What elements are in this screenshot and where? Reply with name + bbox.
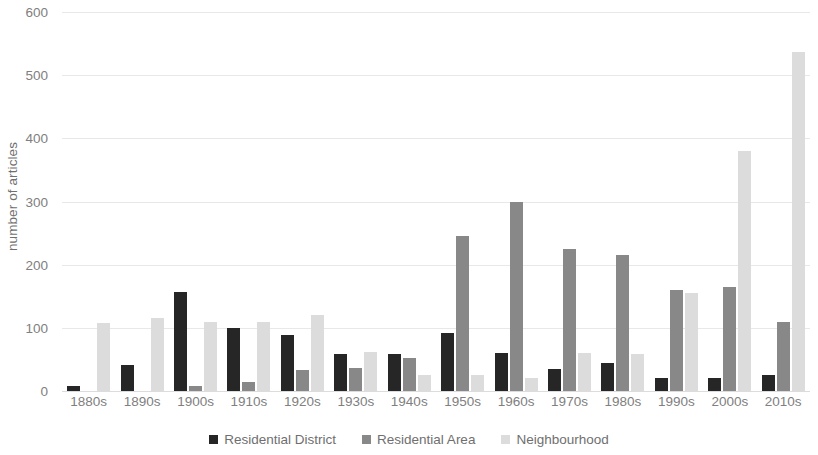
bar-group [383, 12, 436, 391]
bar[interactable] [364, 352, 377, 391]
bar[interactable] [349, 368, 362, 391]
legend-swatch-icon [501, 435, 510, 444]
y-axis-tick: 200 [25, 257, 48, 272]
bar-group [436, 12, 489, 391]
bar[interactable] [792, 52, 805, 391]
bar[interactable] [510, 202, 523, 392]
x-axis-tick: 1940s [383, 394, 436, 416]
bar-group [115, 12, 168, 391]
bar-group [489, 12, 542, 391]
bar-group [222, 12, 275, 391]
bar[interactable] [227, 328, 240, 391]
x-axis-tick-labels: 1880s1890s1900s1910s1920s1930s1940s1950s… [62, 394, 810, 416]
bar[interactable] [563, 249, 576, 391]
bar[interactable] [456, 236, 469, 391]
bar-group [543, 12, 596, 391]
bar[interactable] [311, 315, 324, 391]
bar[interactable] [708, 378, 721, 391]
bar[interactable] [601, 363, 614, 391]
bar[interactable] [174, 292, 187, 391]
bar[interactable] [296, 370, 309, 391]
x-axis-tick: 1910s [222, 394, 275, 416]
legend-label: Neighbourhood [516, 432, 608, 447]
bar-group [276, 12, 329, 391]
bar[interactable] [578, 353, 591, 391]
x-axis-tick: 1970s [543, 394, 596, 416]
bar-groups [62, 12, 810, 391]
bar-group [62, 12, 115, 391]
bar-chart: number of articles 0100200300400500600 1… [0, 0, 818, 455]
bar[interactable] [257, 322, 270, 391]
bar-group [703, 12, 756, 391]
bar[interactable] [388, 354, 401, 391]
x-axis-tick: 2000s [703, 394, 756, 416]
x-axis-tick: 1920s [276, 394, 329, 416]
legend-item[interactable]: Residential District [209, 432, 336, 447]
plot-area [62, 12, 810, 391]
legend-swatch-icon [209, 435, 218, 444]
bar[interactable] [151, 318, 164, 391]
y-axis-tick: 400 [25, 131, 48, 146]
x-axis-tick: 1930s [329, 394, 382, 416]
bar-group [756, 12, 809, 391]
bar[interactable] [670, 290, 683, 391]
bar[interactable] [685, 293, 698, 391]
y-axis-tick: 100 [25, 320, 48, 335]
x-axis-tick: 1960s [489, 394, 542, 416]
bar[interactable] [777, 322, 790, 391]
y-axis-tick: 600 [25, 5, 48, 20]
legend: Residential DistrictResidential AreaNeig… [0, 428, 818, 450]
bar[interactable] [616, 255, 629, 391]
bar[interactable] [525, 378, 538, 391]
bar-group [169, 12, 222, 391]
legend-item[interactable]: Neighbourhood [501, 432, 608, 447]
bar[interactable] [548, 369, 561, 391]
bar[interactable] [334, 354, 347, 391]
legend-swatch-icon [362, 435, 371, 444]
bar[interactable] [418, 375, 431, 391]
bar[interactable] [189, 386, 202, 391]
y-axis-tick-labels: 0100200300400500600 [0, 0, 56, 392]
bar-group [596, 12, 649, 391]
bar[interactable] [738, 151, 751, 391]
bar[interactable] [471, 375, 484, 391]
bar-group [329, 12, 382, 391]
x-axis-tick: 1990s [650, 394, 703, 416]
legend-label: Residential District [224, 432, 336, 447]
bar[interactable] [204, 322, 217, 391]
x-axis-tick: 1980s [596, 394, 649, 416]
y-axis-tick: 500 [25, 68, 48, 83]
y-axis-tick: 0 [40, 384, 48, 399]
bar[interactable] [441, 333, 454, 391]
x-axis-tick: 1950s [436, 394, 489, 416]
x-axis-tick: 1880s [62, 394, 115, 416]
bar[interactable] [242, 382, 255, 391]
bar[interactable] [67, 386, 80, 391]
x-axis-tick: 1890s [115, 394, 168, 416]
bar[interactable] [97, 323, 110, 391]
gridline [62, 391, 810, 392]
bar-group [650, 12, 703, 391]
bar[interactable] [723, 287, 736, 391]
bar[interactable] [655, 378, 668, 391]
x-axis-tick: 1900s [169, 394, 222, 416]
x-axis-tick: 2010s [756, 394, 809, 416]
bar[interactable] [762, 375, 775, 391]
legend-label: Residential Area [377, 432, 475, 447]
legend-item[interactable]: Residential Area [362, 432, 475, 447]
bar[interactable] [631, 354, 644, 391]
y-axis-tick: 300 [25, 194, 48, 209]
bar[interactable] [403, 358, 416, 391]
bar[interactable] [495, 353, 508, 391]
bar[interactable] [121, 365, 134, 391]
bar[interactable] [281, 335, 294, 391]
